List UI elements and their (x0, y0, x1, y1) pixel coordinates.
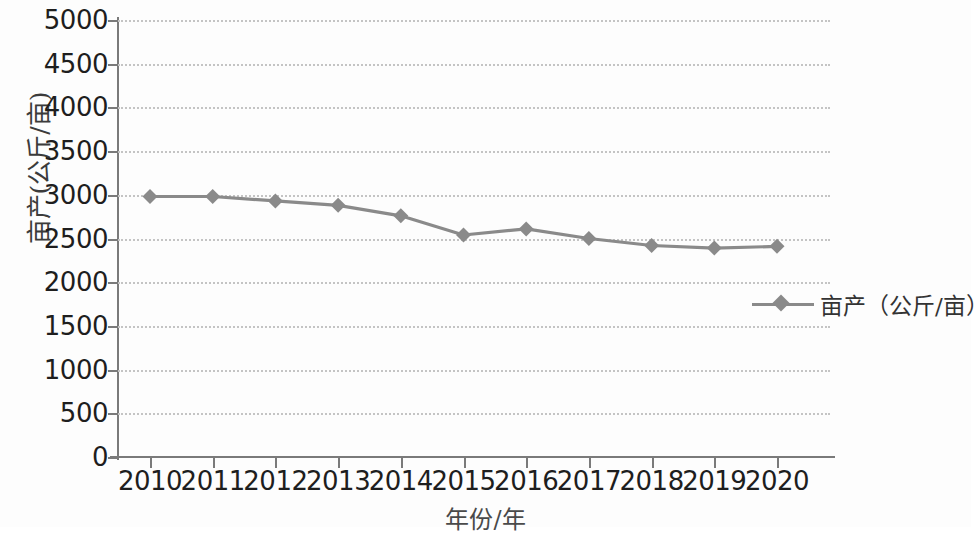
gridline (118, 326, 830, 328)
y-axis-tick-mark (108, 20, 118, 22)
y-axis-tick-label: 5000 (24, 7, 108, 33)
gridline (118, 107, 830, 109)
y-axis-tick-label: 0 (24, 444, 108, 470)
y-axis-tick-mark (108, 195, 118, 197)
legend-item-label: 亩产（公斤/亩） (820, 287, 978, 321)
gridline (118, 64, 830, 66)
y-axis-tick-mark (108, 413, 118, 415)
y-axis-tick-labels: 0500100015002000250030003500400045005000 (20, 0, 108, 527)
y-axis-tick-mark (108, 151, 118, 153)
y-axis-tick-label: 1500 (24, 313, 108, 339)
y-axis-tick-label: 2500 (24, 226, 108, 252)
gridline (118, 239, 830, 241)
y-axis-tick-label: 2000 (24, 269, 108, 295)
gridline (118, 413, 830, 415)
y-axis-tick-mark (108, 457, 118, 459)
plot-area (118, 20, 830, 457)
gridline (118, 282, 830, 284)
y-axis-tick-mark (108, 282, 118, 284)
legend-diamond-icon (773, 295, 790, 312)
y-axis-tick-label: 1000 (24, 357, 108, 383)
legend-marker (752, 294, 814, 314)
chart-legend: 亩产（公斤/亩） (752, 287, 978, 321)
y-axis-tick-mark (108, 370, 118, 372)
y-axis-tick-label: 500 (24, 400, 108, 426)
gridline (118, 195, 830, 197)
y-axis-tick-mark (108, 239, 118, 241)
y-axis-tick-mark (108, 107, 118, 109)
x-axis-title: 年份/年 (0, 500, 971, 535)
y-axis-tick-label: 4000 (24, 94, 108, 120)
y-axis-tick-label: 3000 (24, 182, 108, 208)
gridline (118, 151, 830, 153)
x-axis-tick-label: 2020 (740, 468, 814, 494)
gridline (118, 370, 830, 372)
y-axis-tick-label: 3500 (24, 138, 108, 164)
y-axis-tick-label: 4500 (24, 51, 108, 77)
y-axis-tick-mark (108, 64, 118, 66)
gridline (118, 20, 830, 22)
y-axis-tick-mark (108, 326, 118, 328)
